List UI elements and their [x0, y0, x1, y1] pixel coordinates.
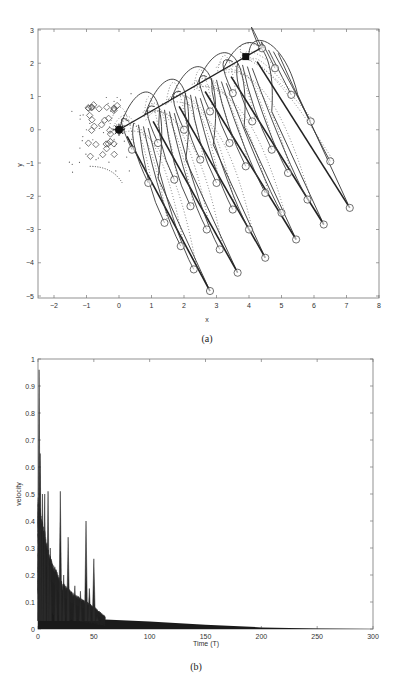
- scatter-dot: [126, 156, 127, 157]
- dotted-trajectory: [168, 96, 236, 210]
- dotted-trajectory: [218, 55, 236, 93]
- end-circle-marker: [213, 179, 220, 186]
- end-circle-marker: [177, 243, 184, 250]
- end-circle-marker: [128, 146, 135, 153]
- x-tick-label-a: 2: [182, 302, 186, 309]
- end-circle-marker: [187, 203, 194, 210]
- end-circle-marker: [346, 204, 353, 211]
- x-tick-label-a: 1: [150, 302, 154, 309]
- end-circle-marker: [229, 90, 236, 97]
- scatter-dot: [82, 136, 83, 137]
- plot-area-a: [69, 27, 354, 295]
- diamond-marker: [93, 141, 99, 147]
- plot-frame-b: [38, 359, 373, 629]
- x-tick-label-a: 7: [345, 302, 349, 309]
- end-circle-marker: [203, 226, 210, 233]
- panel-b: 05010015020025030000.10.20.30.40.50.60.7…: [15, 356, 379, 674]
- diamond-marker: [88, 127, 94, 133]
- panel-a: −2−1012345678−5−4−3−2−10123 x y (a): [16, 27, 381, 346]
- end-circle-marker: [249, 118, 256, 125]
- scatter-dot: [92, 139, 93, 140]
- plot-area-b: [38, 370, 373, 629]
- scatter-dot: [126, 118, 127, 119]
- scatter-dot: [72, 172, 73, 173]
- trajectory-ray: [153, 121, 238, 272]
- caption-b: (b): [190, 661, 202, 673]
- x-tick-label-b: 0: [36, 633, 40, 640]
- trajectory-ray: [179, 106, 265, 257]
- scatter-dot: [109, 131, 110, 132]
- diamond-marker: [91, 123, 97, 129]
- end-circle-marker: [180, 126, 187, 133]
- y-tick-label-b: 0.6: [25, 464, 35, 471]
- end-circle-marker: [271, 65, 278, 72]
- scatter-dot: [95, 159, 96, 160]
- y-axis-label-a: y: [16, 163, 24, 167]
- y-tick-label-a: 1: [30, 93, 34, 100]
- x-tick-label-a: 5: [280, 302, 284, 309]
- caption-a: (a): [201, 333, 212, 345]
- scatter-dot: [86, 129, 87, 130]
- end-circle-marker: [234, 269, 241, 276]
- x-tick-label-b: 200: [255, 633, 267, 640]
- end-circle-marker: [278, 209, 285, 216]
- end-circle-marker: [206, 108, 213, 115]
- scatter-dot: [79, 148, 80, 149]
- y-tick-label-a: −5: [26, 293, 34, 300]
- goal-square-marker: [242, 53, 249, 60]
- y-tick-label-b: 0.7: [25, 437, 35, 444]
- y-tick-label-b: 0: [31, 626, 35, 633]
- x-tick-label-a: −2: [50, 302, 58, 309]
- trajectory-branch: [133, 123, 149, 183]
- x-tick-label-b: 100: [144, 633, 156, 640]
- scatter-dot: [130, 93, 131, 94]
- end-circle-marker: [216, 246, 223, 253]
- axis-ticks-a: −2−1012345678−5−4−3−2−10123: [26, 27, 381, 310]
- scatter-dot: [83, 114, 84, 115]
- diamond-marker: [86, 112, 92, 118]
- end-circle-marker: [229, 206, 236, 213]
- diamond-marker: [99, 151, 105, 157]
- diamond-marker: [104, 104, 110, 110]
- x-tick-label-b: 300: [367, 633, 379, 640]
- end-circle-marker: [304, 196, 311, 203]
- trajectory-ray: [205, 92, 296, 240]
- x-tick-label-b: 250: [311, 633, 323, 640]
- scatter-dot: [98, 157, 99, 158]
- x-axis-label-a: x: [205, 316, 209, 323]
- end-circle-marker: [327, 158, 334, 165]
- x-tick-label-b: 50: [90, 633, 98, 640]
- end-circle-marker: [288, 91, 295, 98]
- scatter-dot: [80, 119, 81, 120]
- y-tick-label-a: 0: [30, 126, 34, 133]
- velocity-spike: [67, 537, 70, 621]
- y-tick-label-b: 0.8: [25, 410, 35, 417]
- figure: −2−1012345678−5−4−3−2−10123 x y (a) 0501…: [0, 0, 400, 700]
- scatter-dot: [124, 141, 125, 142]
- x-tick-label-b: 150: [200, 633, 212, 640]
- scatter-dot: [108, 162, 109, 163]
- end-circle-marker: [145, 179, 152, 186]
- x-tick-label-a: −1: [83, 302, 91, 309]
- scatter-dot: [72, 164, 73, 165]
- y-tick-label-b: 1: [31, 356, 35, 363]
- velocity-spike: [92, 559, 95, 621]
- y-tick-label-b: 0.1: [25, 599, 35, 606]
- end-circle-marker: [245, 226, 252, 233]
- scatter-dot: [69, 162, 70, 163]
- scatter-dot: [85, 154, 86, 155]
- end-circle-marker: [307, 118, 314, 125]
- scatter-dot: [115, 170, 116, 171]
- scatter-dot: [129, 170, 130, 171]
- scatter-dot: [114, 139, 115, 140]
- scatter-dot: [117, 97, 118, 98]
- x-tick-label-a: 6: [312, 302, 316, 309]
- y-tick-label-b: 0.9: [25, 383, 35, 390]
- velocity-spike: [59, 491, 62, 621]
- y-tick-label-b: 0.3: [25, 545, 35, 552]
- y-tick-label-b: 0.2: [25, 572, 35, 579]
- scatter-dot: [110, 111, 111, 112]
- x-tick-label-a: 0: [117, 302, 121, 309]
- end-circle-marker: [226, 139, 233, 146]
- y-tick-label-b: 0.4: [25, 518, 35, 525]
